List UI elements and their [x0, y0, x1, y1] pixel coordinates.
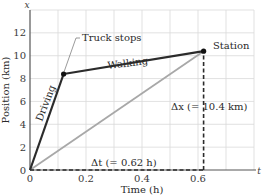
- y-axis-title: Position (km): [0, 56, 11, 123]
- delta-x-label: Δx (= 10.4 km): [171, 101, 247, 112]
- truck-stop-point: [61, 71, 66, 76]
- y-tick-label: 12: [13, 27, 26, 38]
- position-time-chart: 02468101200.20.40.6 x t Time (h) Positio…: [0, 0, 264, 196]
- y-tick-label: 0: [20, 165, 26, 176]
- y-axis-symbol: x: [24, 0, 29, 10]
- x-axis-title: Time (h): [121, 184, 164, 195]
- y-tick-label: 6: [20, 96, 26, 107]
- x-tick-label: 0.4: [134, 173, 150, 184]
- y-tick-label: 4: [20, 119, 26, 130]
- x-tick-label: 0: [27, 173, 33, 184]
- station-point: [201, 49, 206, 54]
- truck-stops-leader: [64, 38, 76, 72]
- x-tick-label: 0.2: [78, 173, 94, 184]
- truck-stops-label: Truck stops: [82, 32, 141, 43]
- station-label: Station: [213, 40, 250, 51]
- delta-t-label: Δt (= 0.62 h): [91, 157, 157, 168]
- y-tick-label: 8: [20, 73, 26, 84]
- y-tick-label: 10: [13, 50, 26, 61]
- x-axis-symbol: t: [257, 166, 261, 176]
- y-tick-label: 2: [20, 142, 26, 153]
- x-tick-label: 0.6: [190, 173, 206, 184]
- walking-label: Walking: [107, 55, 149, 71]
